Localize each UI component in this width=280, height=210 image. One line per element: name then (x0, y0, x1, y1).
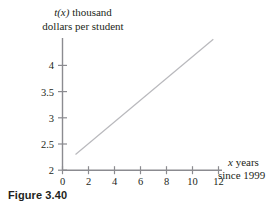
x-axis-label-line1: x years (228, 156, 259, 170)
x-tick-label: 0 (60, 176, 65, 187)
x-tick-label: 6 (138, 176, 143, 187)
x-tick-label: 2 (86, 176, 91, 187)
figure-caption: Figure 3.40 (8, 189, 67, 201)
y-tick-label: 4 (26, 60, 54, 71)
data-line (76, 39, 214, 154)
figure-container: t(x) thousanddollars per student 22.533.… (0, 0, 280, 210)
y-tick-label: 3.5 (26, 86, 54, 97)
y-tick-label: 2 (26, 165, 54, 176)
y-tick-label: 3 (26, 112, 54, 123)
data-series-group (76, 39, 214, 154)
x-tick-label: 8 (164, 176, 169, 187)
x-axis-label-line2: since 1999 (218, 169, 265, 183)
axis-lines (62, 38, 222, 171)
x-tick-label: 4 (112, 176, 117, 187)
x-axis-label-line1-rest: years (233, 156, 259, 168)
x-tick-label: 10 (187, 176, 198, 187)
y-tick-label: 2.5 (26, 139, 54, 150)
